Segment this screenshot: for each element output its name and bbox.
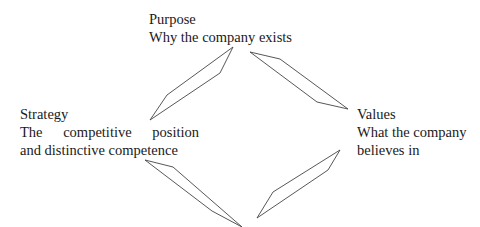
node-strategy: Strategy The competitive position and di… xyxy=(20,105,200,159)
node-values: Values What the company believes in xyxy=(357,105,467,159)
purpose-title: Purpose xyxy=(149,10,292,28)
connector-values-bottom xyxy=(257,150,340,218)
strategy-description-line2: and distinctive competence xyxy=(20,141,200,159)
connector-purpose-values xyxy=(250,52,348,109)
values-title: Values xyxy=(357,105,467,123)
values-description-line2: believes in xyxy=(357,141,467,159)
strategy-title: Strategy xyxy=(20,105,200,123)
strategy-word: position xyxy=(152,123,199,141)
connector-strategy-bottom xyxy=(145,160,242,227)
purpose-description: Why the company exists xyxy=(149,28,292,46)
strategy-description-line1: The competitive position xyxy=(20,123,199,141)
strategy-word: The xyxy=(20,123,43,141)
values-description-line1: What the company xyxy=(357,123,467,141)
strategy-word: competitive xyxy=(63,123,131,141)
node-purpose: Purpose Why the company exists xyxy=(149,10,292,46)
